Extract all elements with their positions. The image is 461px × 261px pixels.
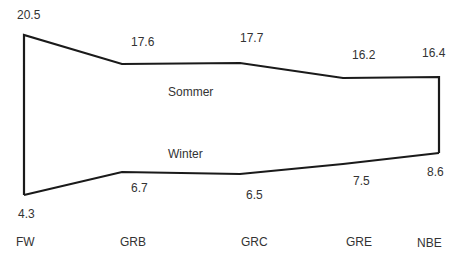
sommer-value-fw: 20.5: [17, 9, 40, 21]
sommer-value-gre: 16.2: [352, 49, 375, 61]
winter-value-grc: 6.5: [246, 189, 263, 201]
category-label-gre: GRE: [346, 236, 372, 248]
winter-value-fw: 4.3: [18, 208, 35, 220]
chart-plot: [0, 0, 461, 261]
winter-line: [24, 153, 439, 195]
winter-series-label: Winter: [168, 148, 203, 160]
sommer-value-grc: 17.7: [240, 32, 263, 44]
winter-value-nbe: 8.6: [427, 166, 444, 178]
winter-value-grb: 6.7: [131, 182, 148, 194]
sommer-value-nbe: 16.4: [422, 47, 445, 59]
winter-value-gre: 7.5: [353, 175, 370, 187]
category-label-grc: GRC: [241, 236, 268, 248]
sommer-series-label: Sommer: [168, 86, 213, 98]
sommer-line: [24, 35, 439, 195]
category-label-nbe: NBE: [417, 237, 442, 249]
sommer-value-grb: 17.6: [131, 36, 154, 48]
category-label-fw: FW: [16, 236, 35, 248]
category-label-grb: GRB: [120, 236, 146, 248]
